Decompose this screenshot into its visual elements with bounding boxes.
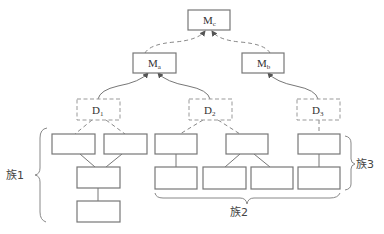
leaf-box-l3 (155, 134, 197, 154)
edge-mb-mc (212, 31, 270, 53)
edge-d1-ma (98, 73, 148, 99)
family-2-brace (155, 193, 340, 204)
node-mc: Mc (188, 10, 230, 30)
edge-d1-l1 (75, 120, 92, 134)
edge-l4-f2b (225, 154, 240, 167)
node-d3: D3 (297, 99, 340, 120)
node-mb: Mb (242, 53, 284, 73)
edge-d2-l4 (218, 120, 240, 134)
family-3-brace (345, 136, 355, 190)
family-3-label: 族3 (356, 157, 374, 171)
leaf-box-f3 (298, 167, 340, 189)
leaf-box-f2b (203, 167, 246, 189)
leaf-box-f2c (251, 167, 293, 189)
leaf-box-l4 (226, 134, 268, 154)
edge-d3-mb (268, 73, 318, 99)
leaf-box-f1a (77, 167, 120, 188)
leaf-box-l5 (298, 134, 340, 154)
node-d1: D1 (77, 99, 120, 120)
edge-l1-f1a (80, 154, 95, 167)
node-ma: Ma (133, 53, 176, 73)
leaf-box-l2 (104, 134, 147, 154)
leaf-box-l1 (52, 134, 95, 154)
edge-d1-l2 (106, 120, 125, 134)
hierarchy-diagram: Mc Ma Mb D1 D2 D3 族1 族2 族3 (0, 0, 384, 234)
family-1-brace (35, 128, 47, 222)
family-2-label: 族2 (230, 205, 248, 219)
leaf-box-f1b (77, 201, 120, 222)
edge-d2-l3 (180, 120, 203, 134)
edge-l4-f2c (254, 154, 270, 167)
family-1-label: 族1 (6, 168, 24, 182)
edge-ma-mc (145, 31, 205, 53)
edge-l2-f1a (106, 154, 122, 167)
edge-d2-ma (158, 73, 210, 99)
leaf-box-f2a (155, 167, 197, 189)
node-d2: D2 (189, 99, 232, 120)
